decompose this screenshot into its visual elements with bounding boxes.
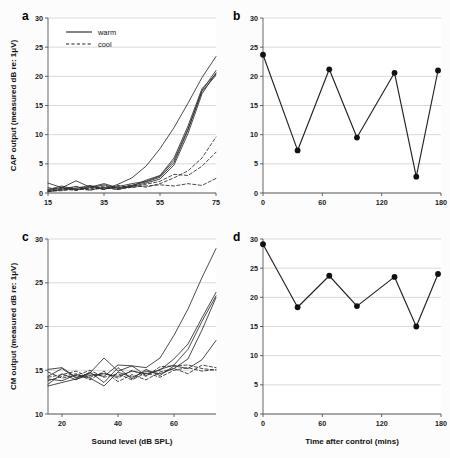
x-tick-label: 55	[156, 198, 164, 207]
legend-label-warm: warm	[97, 28, 116, 37]
data-point	[435, 271, 441, 277]
y-tick-label: 0	[254, 410, 258, 419]
y-tick-label: 30	[250, 14, 258, 23]
y-tick-label: 10	[35, 410, 43, 419]
panel-b: b 051015202530060120180	[225, 0, 450, 229]
y-tick-label: 0	[39, 189, 43, 198]
data-point	[326, 66, 332, 72]
panel-b-svg: b 051015202530060120180	[225, 0, 450, 229]
x-axis-title-c: Sound level (dB SPL)	[92, 437, 173, 446]
panel-b-letter: b	[233, 9, 240, 23]
y-tick-label: 15	[35, 101, 43, 110]
y-tick-label: 10	[250, 130, 258, 139]
y-axis-title-c: CM output (measured dB re: 1μV)	[9, 263, 18, 390]
y-tick-label: 25	[250, 43, 258, 52]
data-point	[260, 52, 266, 58]
y-tick-label: 25	[250, 264, 258, 273]
y-tick-label: 30	[35, 235, 43, 244]
y-tick-label: 30	[250, 235, 258, 244]
x-tick-label: 180	[435, 198, 447, 207]
y-tick-label: 0	[254, 189, 258, 198]
x-tick-label: 35	[100, 198, 108, 207]
y-tick-label: 25	[35, 43, 43, 52]
y-tick-label: 20	[250, 293, 258, 302]
panel-a-svg: a 05101520253015355575CAP output (measur…	[0, 0, 225, 229]
data-point	[354, 135, 360, 141]
x-tick-label: 120	[376, 419, 388, 428]
figure-container: a 05101520253015355575CAP output (measur…	[0, 0, 450, 458]
panel-b-plot: 051015202530060120180	[250, 14, 447, 207]
x-tick-label: 60	[318, 419, 326, 428]
legend-label-cool: cool	[98, 40, 112, 49]
data-point	[295, 148, 301, 154]
y-tick-label: 15	[35, 366, 43, 375]
data-point	[435, 68, 441, 74]
x-tick-label: 180	[435, 419, 447, 428]
y-tick-label: 30	[35, 14, 43, 23]
y-tick-label: 20	[250, 72, 258, 81]
x-tick-label: 20	[58, 419, 66, 428]
y-axis-title-a: CAP output (measured dB re: 1μV)	[9, 39, 18, 171]
x-tick-label: 40	[114, 419, 122, 428]
data-point	[413, 174, 419, 180]
y-tick-label: 5	[39, 159, 43, 168]
data-point	[413, 324, 419, 330]
x-tick-label: 75	[212, 198, 220, 207]
panel-c-letter: c	[22, 230, 29, 244]
panel-a-plot: 05101520253015355575CAP output (measured…	[9, 14, 220, 207]
x-tick-label: 120	[376, 198, 388, 207]
y-tick-label: 5	[254, 380, 258, 389]
data-point	[326, 273, 332, 279]
y-tick-label: 15	[250, 101, 258, 110]
y-tick-label: 10	[35, 130, 43, 139]
x-axis-title-d: Time after control (mins)	[305, 437, 399, 446]
panel-a: a 05101520253015355575CAP output (measur…	[0, 0, 225, 229]
data-point	[392, 70, 398, 76]
panel-c-plot: 1015202530204060CM output (measured dB r…	[9, 235, 216, 446]
y-tick-label: 20	[35, 72, 43, 81]
data-point	[260, 241, 266, 247]
panel-d-svg: d 051015202530060120180Time after contro…	[225, 229, 450, 458]
x-tick-label: 0	[261, 419, 265, 428]
panel-c-svg: c 1015202530204060CM output (measured dB…	[0, 229, 225, 458]
panel-a-letter: a	[22, 9, 29, 23]
panel-d: d 051015202530060120180Time after contro…	[225, 229, 450, 458]
x-tick-label: 15	[44, 198, 52, 207]
data-point	[392, 274, 398, 280]
data-point	[295, 304, 301, 310]
y-tick-label: 20	[35, 322, 43, 331]
y-tick-label: 10	[250, 351, 258, 360]
x-tick-label: 0	[261, 198, 265, 207]
data-point	[354, 303, 360, 309]
y-tick-label: 15	[250, 322, 258, 331]
y-tick-label: 25	[35, 278, 43, 287]
panel-d-plot: 051015202530060120180Time after control …	[250, 235, 447, 446]
panel-d-letter: d	[233, 230, 240, 244]
y-tick-label: 5	[254, 159, 258, 168]
x-tick-label: 60	[318, 198, 326, 207]
x-tick-label: 60	[170, 419, 178, 428]
panel-c: c 1015202530204060CM output (measured dB…	[0, 229, 225, 458]
